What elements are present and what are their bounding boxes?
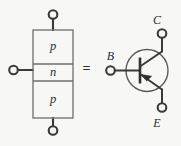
- layer-label-collector: p: [49, 39, 56, 53]
- layer-label-emitter: p: [49, 92, 56, 106]
- collector-terminal-node[interactable]: [158, 29, 167, 38]
- bottom-terminal-node: [49, 126, 58, 135]
- base-terminal-node[interactable]: [106, 66, 115, 75]
- layer-label-base: n: [50, 65, 56, 79]
- equals-sign: =: [83, 61, 91, 76]
- emitter-terminal-node[interactable]: [158, 103, 167, 112]
- figure-root: p n p = B C E: [0, 0, 181, 146]
- base-terminal-label: B: [107, 49, 115, 63]
- collector-terminal-label: C: [153, 13, 162, 27]
- emitter-terminal-label: E: [152, 116, 161, 130]
- side-terminal-node: [9, 66, 18, 75]
- block-diagram-group: p n p: [9, 10, 73, 135]
- top-terminal-node: [49, 10, 58, 19]
- collector-diagonal-lead: [140, 52, 162, 67]
- pnp-equivalence-diagram: p n p = B C E: [0, 0, 181, 146]
- transistor-symbol-group: B C E: [106, 13, 168, 130]
